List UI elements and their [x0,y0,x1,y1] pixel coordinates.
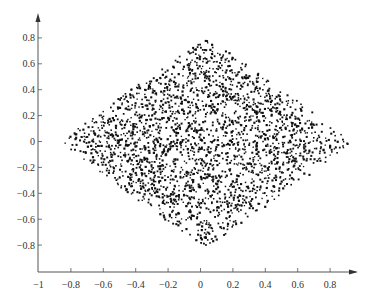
x-axis-arrow-icon [349,270,358,275]
y-tick-label: 0 [30,136,35,147]
y-tick-label: −0.6 [17,214,35,225]
x-tick-label: 0.4 [259,279,272,290]
x-tick-label: −1 [33,279,44,290]
x-tick-label: −0.2 [159,279,177,290]
y-tick-label: 0.2 [23,110,36,121]
x-tick-label: 0.6 [291,279,304,290]
x-tick-label: −0.6 [94,279,112,290]
x-tick-label: −0.8 [62,279,80,290]
y-axis-arrow-icon [36,13,41,22]
y-tick-label: −0.2 [17,162,35,173]
y-tick-label: 0.6 [23,58,36,69]
y-tick-label: −0.8 [17,240,35,251]
x-tick-label: −0.4 [127,279,145,290]
x-ticks: −1−0.8−0.6−0.4−0.200.20.40.60.8 [33,268,336,290]
scatter-chart: −1−0.8−0.6−0.4−0.200.20.40.60.8 0.80.60.… [0,0,371,294]
y-tick-label: 0.4 [23,84,36,95]
x-tick-label: 0 [198,279,203,290]
y-tick-label: 0.8 [23,32,36,43]
x-tick-label: 0.2 [227,279,240,290]
scatter-points [65,40,349,246]
x-tick-label: 0.8 [324,279,337,290]
y-tick-label: −0.4 [17,188,35,199]
